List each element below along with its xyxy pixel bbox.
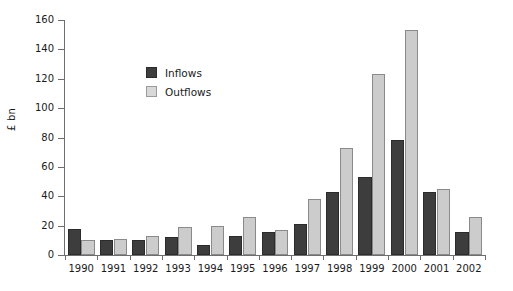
bar-inflows-1999 [358, 177, 371, 255]
x-tick-2001 [420, 255, 421, 260]
y-tick-label-140: 140 [20, 44, 54, 54]
y-tick-60 [58, 167, 64, 168]
y-tick-label-100: 100 [20, 103, 54, 113]
y-tick-100 [58, 108, 64, 109]
x-tick-1995 [227, 255, 228, 260]
bar-inflows-1993 [165, 237, 178, 255]
x-axis-line [64, 255, 485, 256]
bar-inflows-1992 [132, 240, 145, 255]
bar-outflows-1993 [178, 227, 191, 255]
bar-inflows-1991 [100, 240, 113, 255]
bar-group-2000 [391, 20, 418, 255]
x-axis-label-2002: 2002 [449, 263, 489, 275]
legend-label-outflows: Outflows [165, 86, 211, 98]
bar-outflows-1995 [243, 217, 256, 255]
bar-outflows-2000 [405, 30, 418, 255]
x-tick-2000 [388, 255, 389, 260]
bar-inflows-1997 [294, 224, 307, 255]
x-tick-1996 [259, 255, 260, 260]
y-tick-label-80: 80 [20, 133, 54, 143]
y-axis-title: £ bn [6, 108, 17, 131]
bar-group-1991 [100, 20, 127, 255]
y-tick-40 [58, 196, 64, 197]
bar-outflows-1990 [81, 240, 94, 255]
bar-inflows-1990 [68, 229, 81, 255]
x-tick-1998 [323, 255, 324, 260]
bars-layer [65, 20, 485, 255]
bar-group-1994 [197, 20, 224, 255]
bar-group-1993 [165, 20, 192, 255]
bar-chart: £ bn 020406080100120140160 1990199119921… [0, 0, 513, 291]
x-tick-2002 [453, 255, 454, 260]
bar-group-2002 [455, 20, 482, 255]
y-tick-160 [58, 20, 64, 21]
bar-outflows-1999 [372, 74, 385, 255]
bar-outflows-2001 [437, 189, 450, 255]
bar-outflows-2002 [469, 217, 482, 255]
bar-group-1997 [294, 20, 321, 255]
bar-inflows-2001 [423, 192, 436, 255]
x-tick-end [485, 255, 486, 260]
x-tick-1990 [65, 255, 66, 260]
x-tick-1991 [97, 255, 98, 260]
bar-inflows-2002 [455, 232, 468, 256]
bar-outflows-1998 [340, 148, 353, 255]
x-tick-1997 [291, 255, 292, 260]
legend-swatch-inflows-icon [146, 67, 157, 78]
y-tick-120 [58, 79, 64, 80]
bar-group-1999 [358, 20, 385, 255]
y-tick-label-40: 40 [20, 191, 54, 201]
bar-inflows-1994 [197, 245, 210, 255]
y-tick-label-160: 160 [20, 15, 54, 25]
bar-outflows-1996 [275, 230, 288, 255]
bar-group-1996 [262, 20, 289, 255]
bar-outflows-1991 [114, 239, 127, 255]
bar-group-1992 [132, 20, 159, 255]
y-tick-140 [58, 49, 64, 50]
x-tick-1994 [194, 255, 195, 260]
y-tick-label-120: 120 [20, 74, 54, 84]
legend-swatch-outflows-icon [146, 86, 157, 97]
x-tick-1993 [162, 255, 163, 260]
bar-group-1990 [68, 20, 95, 255]
legend-item-outflows: Outflows [146, 83, 211, 100]
bar-outflows-1997 [308, 199, 321, 255]
y-tick-label-60: 60 [20, 162, 54, 172]
bar-outflows-1994 [211, 226, 224, 255]
y-tick-label-20: 20 [20, 221, 54, 231]
legend-label-inflows: Inflows [165, 67, 202, 79]
bar-group-1998 [326, 20, 353, 255]
y-tick-0 [58, 255, 64, 256]
bar-inflows-1995 [229, 236, 242, 255]
bar-group-1995 [229, 20, 256, 255]
y-tick-label-0: 0 [20, 250, 54, 260]
chart-legend: Inflows Outflows [146, 64, 211, 102]
y-tick-80 [58, 138, 64, 139]
x-tick-1992 [130, 255, 131, 260]
legend-item-inflows: Inflows [146, 64, 211, 81]
x-tick-1999 [356, 255, 357, 260]
y-tick-20 [58, 226, 64, 227]
bar-inflows-1996 [262, 232, 275, 256]
bar-inflows-1998 [326, 192, 339, 255]
bar-group-2001 [423, 20, 450, 255]
bar-outflows-1992 [146, 236, 159, 255]
bar-inflows-2000 [391, 140, 404, 255]
